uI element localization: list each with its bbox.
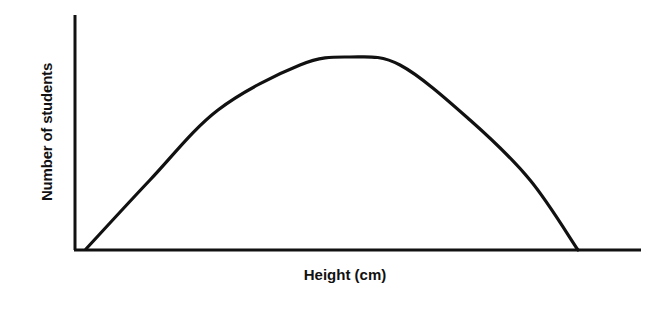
chart-canvas [0, 0, 669, 311]
y-axis-label: Number of students [38, 63, 55, 201]
x-axis-label: Height (cm) [304, 266, 387, 283]
distribution-curve [86, 57, 578, 250]
